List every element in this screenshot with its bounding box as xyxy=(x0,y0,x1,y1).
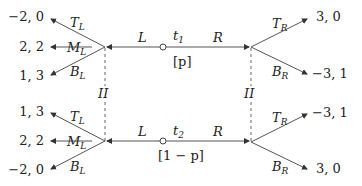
bottom-BL-label: BL xyxy=(69,159,86,176)
top-ML-label: ML xyxy=(66,40,86,57)
top-BR-payoff: −3, 1 xyxy=(312,66,348,81)
bottom-BL-payoff: −2, 0 xyxy=(8,162,44,177)
top-BL-label: BL xyxy=(69,64,86,81)
top-TL-payoff: −2, 0 xyxy=(8,9,44,24)
top-TR-payoff: 3, 0 xyxy=(316,9,341,24)
bottom-TL-label: TL xyxy=(70,109,85,126)
t2-prob: [1 − p] xyxy=(158,148,204,163)
t2-label: t2 xyxy=(173,123,184,140)
game-tree-diagram: L R t1 [p] TL ML BL −2, 0 2, 2 1, 3 TR B… xyxy=(0,0,362,186)
bottom-TL-payoff: 1, 3 xyxy=(19,104,44,119)
chance-node-t2 xyxy=(160,138,166,144)
top-BL-payoff: 1, 3 xyxy=(19,68,44,83)
bottom-ML-label: ML xyxy=(66,134,86,151)
t1-label: t1 xyxy=(173,28,184,45)
bottom-BR-label: BR xyxy=(271,159,289,176)
bottom-TR-payoff: −3, 1 xyxy=(312,105,348,120)
bottom-BR-payoff: 3, 0 xyxy=(316,161,341,176)
bottom-TR-label: TR xyxy=(272,110,288,127)
top-left-move-label: L xyxy=(137,30,147,45)
info-set-left-label: II xyxy=(97,86,109,101)
t1-prob: [p] xyxy=(173,54,191,69)
bottom-ML-payoff: 2, 2 xyxy=(19,133,44,148)
top-TL-label: TL xyxy=(70,15,85,32)
top-ML-payoff: 2, 2 xyxy=(19,39,44,54)
top-TR-label: TR xyxy=(272,16,288,33)
bottom-left-move-label: L xyxy=(137,124,147,139)
info-set-right-label: II xyxy=(243,86,255,101)
bottom-right-move-label: R xyxy=(212,124,223,139)
top-branch: L R t1 [p] TL ML BL −2, 0 2, 2 1, 3 TR B… xyxy=(8,9,347,83)
chance-node-t1 xyxy=(160,44,166,50)
top-right-move-label: R xyxy=(212,30,223,45)
top-BR-label: BR xyxy=(271,64,289,81)
bottom-branch: L R t2 [1 − p] TL ML BL 1, 3 2, 2 −2, 0 … xyxy=(8,104,347,177)
